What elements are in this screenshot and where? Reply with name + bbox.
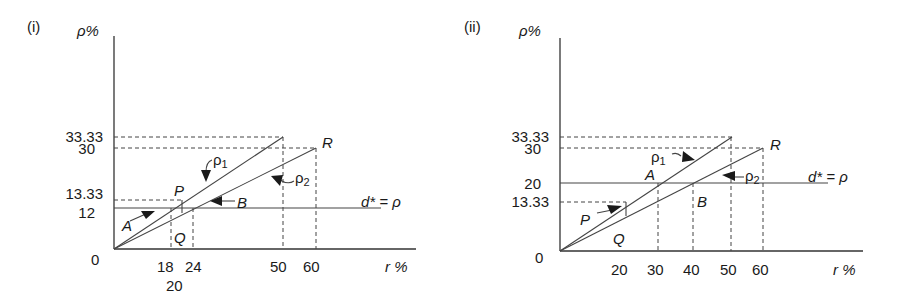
rho1-label: ρ1 xyxy=(651,148,666,167)
y-tick: 13.33 xyxy=(511,193,549,210)
point-p: P xyxy=(580,211,590,228)
x-tick: 40 xyxy=(683,261,700,278)
arrow-icon xyxy=(672,151,695,162)
arrow-icon xyxy=(210,196,235,206)
x-tick: 24 xyxy=(185,258,202,275)
point-r: R xyxy=(770,136,781,153)
line-rho1 xyxy=(114,137,283,249)
point-b: B xyxy=(697,193,707,210)
x-tick: 60 xyxy=(752,261,769,278)
arrow-icon xyxy=(201,160,212,182)
rho1-label: ρ1 xyxy=(213,151,228,170)
rho2-label: ρ2 xyxy=(295,169,310,188)
x-tick: 18 xyxy=(157,258,174,275)
panel-label: (ii) xyxy=(464,18,481,35)
x-tick: 60 xyxy=(303,258,320,275)
point-a: A xyxy=(121,217,132,234)
point-q: Q xyxy=(174,229,186,246)
origin-label: 0 xyxy=(535,249,543,266)
arrow-icon xyxy=(130,211,155,221)
panel-ii: (ii) ρ% 33.33 30 20 13.33 0 20 30 40 50 … xyxy=(464,18,863,278)
y-tick: 30 xyxy=(524,140,541,157)
panel-label: (i) xyxy=(27,18,40,35)
y-axis-label: ρ% xyxy=(76,22,99,39)
x-tick: 50 xyxy=(270,258,287,275)
y-tick: 20 xyxy=(524,175,541,192)
point-b: B xyxy=(237,194,247,211)
d-star-label: d* = ρ xyxy=(361,193,401,210)
y-tick: 13.33 xyxy=(65,185,103,202)
x-axis-label: r % xyxy=(833,261,856,278)
point-a: A xyxy=(644,166,655,183)
x-tick: 50 xyxy=(720,261,737,278)
d-star-label: d* = ρ xyxy=(808,168,848,185)
x-tick: 30 xyxy=(647,261,664,278)
y-tick: 30 xyxy=(78,140,95,157)
point-q: Q xyxy=(613,230,625,247)
x-tick-lower: 20 xyxy=(166,277,183,294)
point-p: P xyxy=(174,182,184,199)
arrow-icon xyxy=(722,171,744,181)
y-tick: 12 xyxy=(78,204,95,221)
x-tick: 20 xyxy=(611,261,628,278)
y-axis-label: ρ% xyxy=(518,22,541,39)
point-r: R xyxy=(322,134,333,151)
panel-i: (i) ρ% 33.33 30 13.33 12 0 18 24 50 60 2… xyxy=(27,18,416,294)
origin-label: 0 xyxy=(91,251,99,268)
rho2-label: ρ2 xyxy=(745,167,760,186)
x-axis-label: r % xyxy=(385,258,408,275)
